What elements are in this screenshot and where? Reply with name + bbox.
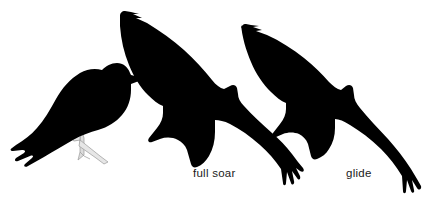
bird-silhouette-plate: full soar glide: [0, 0, 423, 205]
label-glide: glide: [346, 168, 372, 180]
label-full-soar: full soar: [193, 168, 236, 180]
glide-bird-body: [241, 24, 421, 193]
